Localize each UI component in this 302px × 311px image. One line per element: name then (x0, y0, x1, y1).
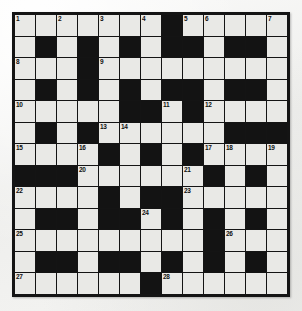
grid-open-cell[interactable] (120, 273, 140, 294)
grid-open-cell[interactable] (141, 230, 161, 251)
grid-open-cell[interactable] (267, 101, 287, 122)
grid-open-cell[interactable]: 4 (141, 15, 161, 36)
grid-open-cell[interactable]: 23 (183, 187, 203, 208)
grid-open-cell[interactable] (225, 273, 245, 294)
grid-open-cell[interactable] (225, 101, 245, 122)
grid-open-cell[interactable] (204, 273, 224, 294)
grid-open-cell[interactable] (99, 80, 119, 101)
grid-open-cell[interactable] (246, 58, 266, 79)
grid-open-cell[interactable] (204, 123, 224, 144)
grid-open-cell[interactable] (120, 166, 140, 187)
grid-open-cell[interactable]: 28 (162, 273, 182, 294)
grid-open-cell[interactable] (246, 144, 266, 165)
grid-open-cell[interactable] (162, 58, 182, 79)
grid-open-cell[interactable] (36, 273, 56, 294)
grid-open-cell[interactable] (141, 37, 161, 58)
grid-open-cell[interactable] (57, 37, 77, 58)
grid-open-cell[interactable] (36, 58, 56, 79)
grid-open-cell[interactable] (36, 187, 56, 208)
grid-open-cell[interactable]: 11 (162, 101, 182, 122)
grid-open-cell[interactable] (204, 187, 224, 208)
grid-open-cell[interactable] (246, 230, 266, 251)
grid-open-cell[interactable]: 5 (183, 15, 203, 36)
grid-open-cell[interactable] (78, 101, 98, 122)
grid-open-cell[interactable]: 24 (141, 209, 161, 230)
crossword-grid[interactable]: 1234567891011121314151617181920212223242… (12, 12, 290, 297)
grid-open-cell[interactable]: 20 (78, 166, 98, 187)
grid-open-cell[interactable] (78, 209, 98, 230)
grid-open-cell[interactable] (162, 123, 182, 144)
grid-open-cell[interactable] (15, 37, 35, 58)
grid-open-cell[interactable]: 22 (15, 187, 35, 208)
grid-open-cell[interactable] (99, 230, 119, 251)
grid-open-cell[interactable]: 21 (183, 166, 203, 187)
grid-open-cell[interactable] (120, 187, 140, 208)
grid-open-cell[interactable] (183, 58, 203, 79)
grid-open-cell[interactable] (78, 252, 98, 273)
grid-open-cell[interactable] (36, 15, 56, 36)
grid-open-cell[interactable] (183, 273, 203, 294)
grid-open-cell[interactable] (78, 273, 98, 294)
grid-open-cell[interactable]: 19 (267, 144, 287, 165)
grid-open-cell[interactable]: 18 (225, 144, 245, 165)
grid-open-cell[interactable] (120, 144, 140, 165)
grid-open-cell[interactable] (267, 273, 287, 294)
grid-open-cell[interactable]: 26 (225, 230, 245, 251)
grid-open-cell[interactable] (267, 58, 287, 79)
grid-open-cell[interactable] (78, 230, 98, 251)
grid-open-cell[interactable] (120, 230, 140, 251)
grid-open-cell[interactable]: 3 (99, 15, 119, 36)
grid-open-cell[interactable] (141, 166, 161, 187)
grid-open-cell[interactable] (267, 37, 287, 58)
grid-open-cell[interactable] (15, 123, 35, 144)
grid-open-cell[interactable] (267, 166, 287, 187)
grid-open-cell[interactable] (57, 144, 77, 165)
grid-open-cell[interactable] (36, 230, 56, 251)
grid-open-cell[interactable] (267, 252, 287, 273)
grid-open-cell[interactable] (141, 123, 161, 144)
grid-open-cell[interactable] (141, 58, 161, 79)
grid-open-cell[interactable] (225, 187, 245, 208)
grid-open-cell[interactable] (246, 101, 266, 122)
grid-open-cell[interactable] (204, 37, 224, 58)
grid-open-cell[interactable] (183, 123, 203, 144)
grid-open-cell[interactable] (99, 273, 119, 294)
grid-open-cell[interactable]: 14 (120, 123, 140, 144)
grid-open-cell[interactable] (36, 101, 56, 122)
grid-open-cell[interactable] (267, 230, 287, 251)
grid-open-cell[interactable] (78, 15, 98, 36)
grid-open-cell[interactable] (15, 209, 35, 230)
grid-open-cell[interactable]: 17 (204, 144, 224, 165)
grid-open-cell[interactable] (15, 80, 35, 101)
grid-open-cell[interactable]: 9 (99, 58, 119, 79)
grid-open-cell[interactable] (267, 80, 287, 101)
grid-open-cell[interactable] (246, 187, 266, 208)
grid-open-cell[interactable] (57, 80, 77, 101)
grid-open-cell[interactable]: 27 (15, 273, 35, 294)
grid-open-cell[interactable]: 25 (15, 230, 35, 251)
grid-open-cell[interactable] (225, 166, 245, 187)
grid-open-cell[interactable] (57, 123, 77, 144)
grid-open-cell[interactable] (99, 101, 119, 122)
grid-open-cell[interactable] (15, 252, 35, 273)
grid-open-cell[interactable] (225, 252, 245, 273)
grid-open-cell[interactable] (183, 252, 203, 273)
grid-open-cell[interactable] (225, 209, 245, 230)
grid-open-cell[interactable] (99, 37, 119, 58)
grid-open-cell[interactable] (99, 166, 119, 187)
grid-open-cell[interactable] (183, 209, 203, 230)
grid-open-cell[interactable]: 10 (15, 101, 35, 122)
grid-open-cell[interactable] (204, 58, 224, 79)
grid-open-cell[interactable] (57, 230, 77, 251)
grid-open-cell[interactable] (225, 58, 245, 79)
grid-open-cell[interactable] (162, 230, 182, 251)
grid-open-cell[interactable]: 15 (15, 144, 35, 165)
grid-open-cell[interactable]: 12 (204, 101, 224, 122)
grid-open-cell[interactable] (246, 15, 266, 36)
grid-open-cell[interactable]: 6 (204, 15, 224, 36)
grid-open-cell[interactable] (204, 80, 224, 101)
grid-open-cell[interactable] (36, 144, 56, 165)
grid-open-cell[interactable] (162, 166, 182, 187)
grid-open-cell[interactable]: 1 (15, 15, 35, 36)
grid-open-cell[interactable] (120, 58, 140, 79)
